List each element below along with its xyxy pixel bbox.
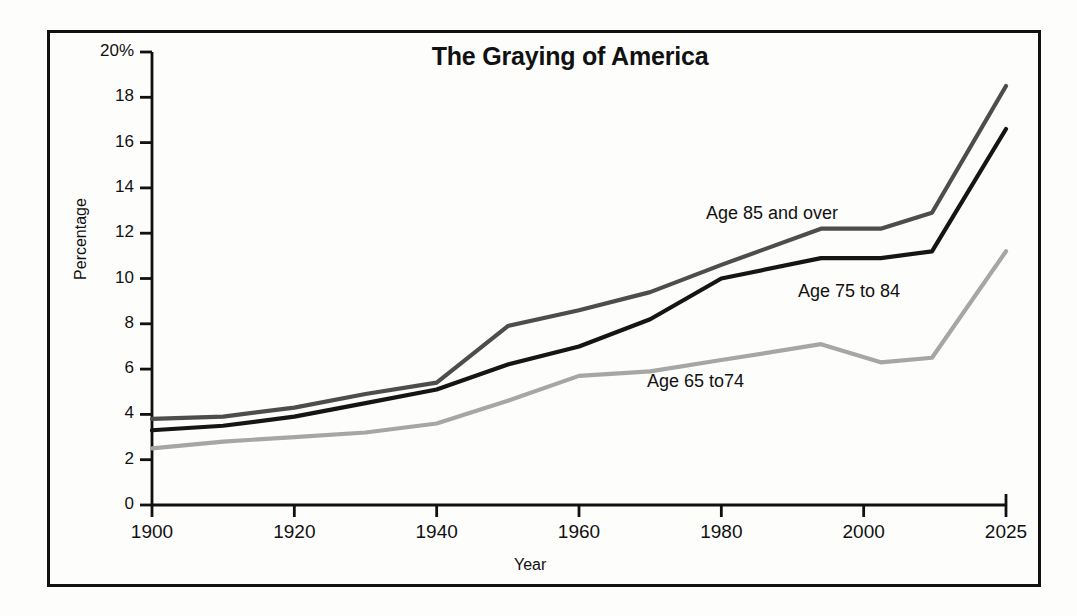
y-tick-label: 18 [74, 86, 134, 106]
y-tick-label: 12 [74, 222, 134, 242]
y-tick-label: 6 [74, 358, 134, 378]
y-tick-label: 2 [74, 449, 134, 469]
x-tick-label: 2000 [824, 521, 904, 543]
series-lines-group [152, 86, 1006, 448]
y-tick-label: 10 [74, 268, 134, 288]
y-tick-label: 20% [74, 41, 134, 61]
x-tick-label: 1900 [112, 521, 192, 543]
series-label: Age 85 and over [706, 203, 838, 224]
series-line [152, 129, 1006, 430]
y-tick-label: 16 [74, 132, 134, 152]
y-tick-label: 8 [74, 313, 134, 333]
x-tick-label: 1940 [397, 521, 477, 543]
series-label: Age 65 to74 [647, 371, 744, 392]
series-line [152, 86, 1006, 419]
series-label: Age 75 to 84 [798, 281, 900, 302]
figure-canvas: The Graying of America Percentage Year 0… [0, 0, 1077, 616]
y-tick-label: 4 [74, 403, 134, 423]
x-tick-label: 1920 [254, 521, 334, 543]
x-tick-label: 1980 [681, 521, 761, 543]
x-tick-label: 2025 [966, 521, 1046, 543]
x-tick-label: 1960 [539, 521, 619, 543]
y-tick-label: 14 [74, 177, 134, 197]
y-tick-label: 0 [74, 494, 134, 514]
